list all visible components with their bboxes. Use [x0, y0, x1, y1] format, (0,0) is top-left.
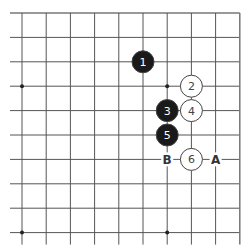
mark-b: B: [161, 152, 173, 167]
hoshi-point: [20, 231, 24, 235]
move-number: 4: [188, 105, 195, 118]
move-number: 3: [164, 105, 171, 118]
white-stone-6: 6: [180, 148, 202, 170]
move-number: 1: [140, 56, 147, 69]
mark-a: A: [210, 152, 222, 167]
move-number: 5: [164, 129, 171, 142]
black-stone-1: 1: [132, 51, 154, 73]
mark-label: B: [163, 153, 172, 167]
hoshi-point: [165, 84, 169, 88]
go-board: 123456 BA: [0, 0, 248, 251]
move-number: 6: [188, 153, 195, 166]
black-stone-5: 5: [156, 124, 178, 146]
grid-lines: [10, 13, 240, 245]
black-stone-3: 3: [156, 100, 178, 122]
mark-label: A: [211, 153, 221, 167]
hoshi-point: [20, 84, 24, 88]
white-stone-2: 2: [180, 75, 202, 97]
hoshi-point: [165, 231, 169, 235]
white-stone-4: 4: [180, 100, 202, 122]
move-number: 2: [188, 80, 195, 93]
